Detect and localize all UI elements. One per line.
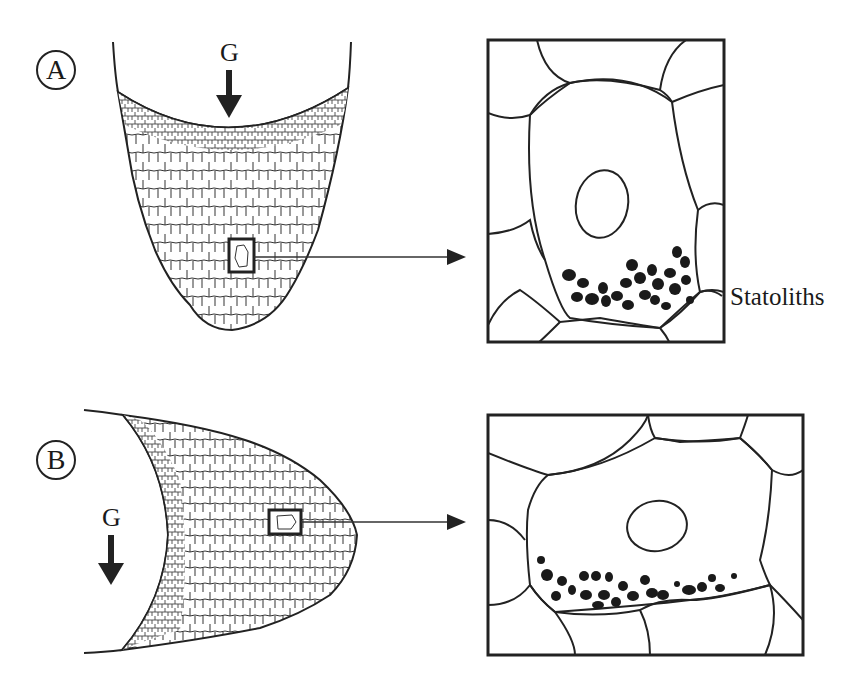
root-b-side-top: [84, 410, 123, 415]
gravity-label-b: G: [102, 505, 121, 531]
statoliths-label: Statoliths: [730, 284, 824, 309]
gravity-label-a: G: [220, 40, 239, 66]
root-a: [113, 42, 466, 330]
statolith-diagram: A B G G Statoliths: [0, 0, 859, 690]
panel-label-a: A: [36, 50, 76, 90]
inset-b: [488, 415, 803, 655]
gravity-arrow-a: [216, 95, 242, 118]
root-a-side-right: [348, 42, 351, 88]
arrow-a-head: [447, 249, 466, 265]
root-a-side-left: [113, 42, 118, 92]
inset-a: [488, 40, 724, 350]
gravity-arrow-b: [98, 563, 124, 585]
root-b-side-bottom: [84, 650, 122, 653]
diagram-graphics: [0, 0, 859, 690]
arrow-b-head: [447, 514, 466, 530]
panel-label-b: B: [36, 440, 76, 480]
root-b: [84, 410, 466, 653]
